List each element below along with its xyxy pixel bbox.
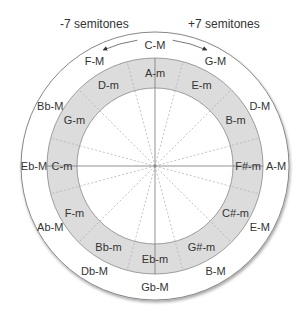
- major-key-label: Gb-M: [141, 281, 169, 293]
- major-key-label: E-M: [250, 221, 270, 233]
- major-key-label: B-M: [205, 265, 225, 277]
- minor-key-label: F#-m: [235, 160, 261, 172]
- major-key-label: Db-M: [81, 265, 108, 277]
- minor-key-label: G-m: [64, 114, 85, 126]
- minor-key-label: A-m: [145, 67, 165, 79]
- minor-key-label: D-m: [98, 79, 119, 91]
- major-key-label: A-M: [266, 160, 286, 172]
- minor-key-label: Eb-m: [142, 253, 168, 265]
- major-key-label: C-M: [145, 39, 166, 51]
- minor-key-label: E-m: [191, 79, 211, 91]
- major-key-label: Ab-M: [37, 221, 63, 233]
- header-left: -7 semitones: [60, 17, 129, 31]
- major-key-label: F-M: [85, 55, 105, 67]
- minor-key-label: C-m: [52, 160, 73, 172]
- major-key-label: D-M: [249, 100, 270, 112]
- major-key-label: G-M: [205, 55, 226, 67]
- major-key-label: Eb-M: [21, 160, 47, 172]
- minor-key-label: C#-m: [222, 207, 249, 219]
- minor-key-label: Bb-m: [95, 241, 121, 253]
- minor-key-label: B-m: [225, 114, 245, 126]
- minor-key-label: F-m: [65, 207, 85, 219]
- header-right: +7 semitones: [188, 17, 260, 31]
- minor-key-label: G#-m: [188, 241, 216, 253]
- major-key-label: Bb-M: [37, 100, 63, 112]
- circle-of-fifths: C-MG-MD-MA-ME-MB-MGb-MDb-MAb-MEb-MBb-MF-…: [0, 0, 302, 317]
